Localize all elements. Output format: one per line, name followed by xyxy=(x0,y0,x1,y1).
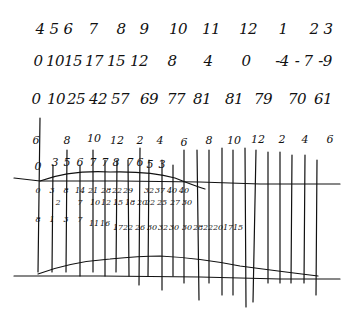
svg-text:11: 11 xyxy=(89,219,99,228)
tick-label: 8 xyxy=(64,134,71,147)
svg-text:8: 8 xyxy=(35,215,40,224)
svg-text:27: 27 xyxy=(169,198,181,207)
tick-label: 10 xyxy=(227,134,241,147)
svg-text:28: 28 xyxy=(192,223,203,232)
tick-label: 4 xyxy=(156,134,164,147)
svg-text:3: 3 xyxy=(52,156,59,169)
svg-text:7: 7 xyxy=(77,198,83,207)
tick-label: 12 xyxy=(251,133,265,146)
svg-text:14: 14 xyxy=(75,186,85,195)
svg-text:20: 20 xyxy=(212,223,223,232)
svg-text:15: 15 xyxy=(233,223,243,232)
svg-text:3: 3 xyxy=(49,186,54,195)
svg-text:37: 37 xyxy=(155,186,166,195)
svg-text:30: 30 xyxy=(182,223,192,232)
svg-text:2: 2 xyxy=(54,198,60,207)
svg-text:6: 6 xyxy=(137,156,144,169)
svg-text:30: 30 xyxy=(147,223,157,232)
svg-text:10: 10 xyxy=(90,198,100,207)
tick-label: 8 xyxy=(206,134,213,147)
row3-values: 2 7 10 12 15 18 20 22 25 27 30 xyxy=(54,198,192,207)
svg-text:8: 8 xyxy=(63,186,68,195)
svg-text:0: 0 xyxy=(35,160,42,173)
svg-text:28: 28 xyxy=(100,186,111,195)
svg-text:40: 40 xyxy=(166,186,177,195)
svg-text:18: 18 xyxy=(125,198,135,207)
svg-text:30: 30 xyxy=(169,223,179,232)
svg-text:8: 8 xyxy=(113,156,120,169)
tick-label: 4 xyxy=(301,133,309,146)
svg-text:15: 15 xyxy=(113,198,123,207)
svg-text:3: 3 xyxy=(63,215,68,224)
svg-text:21: 21 xyxy=(87,186,98,195)
tick-label: 2 xyxy=(136,134,144,147)
row2-values: 0 3 8 14 21 28 22 29 32 37 40 40 xyxy=(35,186,189,195)
svg-text:32: 32 xyxy=(144,186,154,195)
svg-text:22: 22 xyxy=(122,223,133,232)
svg-text:22: 22 xyxy=(144,198,155,207)
svg-text:32: 32 xyxy=(158,223,168,232)
svg-text:5: 5 xyxy=(147,158,154,171)
svg-text:3: 3 xyxy=(159,158,166,171)
svg-text:30: 30 xyxy=(182,198,192,207)
svg-text:25: 25 xyxy=(156,198,167,207)
tick-label: 6 xyxy=(181,136,188,149)
svg-text:7: 7 xyxy=(77,215,83,224)
tick-label: 6 xyxy=(327,133,334,146)
svg-text:6: 6 xyxy=(77,156,84,169)
svg-text:0: 0 xyxy=(35,186,40,195)
x-axis-ticks: 6 8 10 12 2 4 6 8 10 12 2 4 6 xyxy=(33,132,334,149)
svg-text:40: 40 xyxy=(178,186,189,195)
svg-text:7: 7 xyxy=(127,156,134,169)
svg-text:29: 29 xyxy=(122,186,133,195)
sketch-chart: 6 8 10 12 2 4 6 8 10 12 2 4 6 0 3 5 6 7 … xyxy=(0,0,352,316)
svg-text:22: 22 xyxy=(111,186,122,195)
svg-text:22: 22 xyxy=(202,223,213,232)
svg-text:1: 1 xyxy=(49,215,54,224)
svg-text:12: 12 xyxy=(101,198,111,207)
svg-text:5: 5 xyxy=(64,156,71,169)
tick-label: 6 xyxy=(33,134,40,147)
svg-text:16: 16 xyxy=(100,219,110,228)
row1-values: 0 3 5 6 7 7 8 7 6 5 3 xyxy=(35,156,166,173)
tick-label: 12 xyxy=(110,134,124,147)
svg-text:26: 26 xyxy=(134,223,145,232)
tick-label: 10 xyxy=(87,132,101,145)
tick-label: 2 xyxy=(278,133,286,146)
svg-text:7: 7 xyxy=(102,156,109,169)
svg-text:7: 7 xyxy=(90,156,97,169)
